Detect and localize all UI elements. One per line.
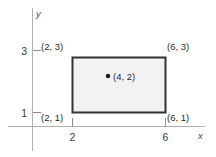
vertex-label-top-left: (2, 3)	[41, 41, 63, 52]
y-tick-label-1: 1	[21, 107, 27, 119]
vertex-label-bottom-right: (6, 1)	[167, 112, 189, 123]
coordinate-plane-figure: y x 3 1 2 6 (2, 3) (6, 3) (2, 1) (6, 1) …	[0, 0, 216, 157]
vertex-label-bottom-left: (2, 1)	[41, 112, 63, 123]
x-tick-label-6: 6	[163, 131, 169, 143]
y-axis-label: y	[35, 8, 42, 19]
center-point-dot	[106, 74, 110, 78]
rectangle-shape	[73, 58, 166, 113]
x-axis-label: x	[197, 130, 204, 141]
y-tick-label-3: 3	[21, 45, 27, 57]
center-point-label: (4, 2)	[113, 71, 135, 82]
x-tick-label-2: 2	[70, 131, 76, 143]
vertex-label-top-right: (6, 3)	[167, 41, 189, 52]
